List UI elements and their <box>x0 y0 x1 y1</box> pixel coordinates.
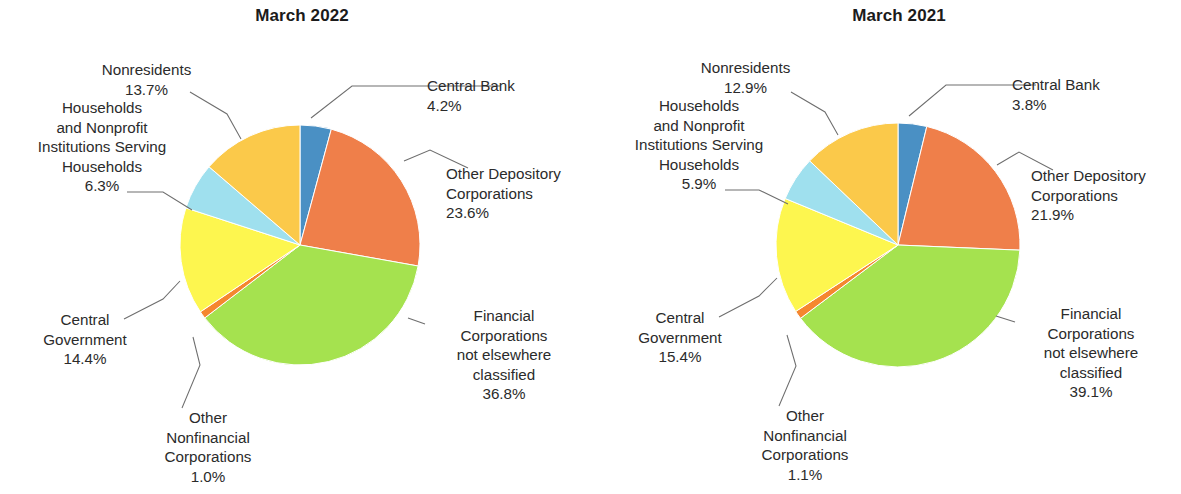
label-households-right: Households and Nonprofit Institutions Se… <box>599 96 799 194</box>
label-households-left: Households and Nonprofit Institutions Se… <box>2 98 202 196</box>
leader-financial-nec <box>996 316 1015 322</box>
label-nonresidents-right: Nonresidents 12.9% <box>663 58 828 97</box>
pie-slices-right <box>776 123 1020 367</box>
leader-financial-nec <box>408 318 425 324</box>
label-other-nonfinancial-left: Other Nonfinancial Corporations 1.0% <box>128 408 288 486</box>
label-central-bank-left: Central Bank 4.2% <box>427 76 577 115</box>
label-financial-nec-right: Financial Corporations not elsewhere cla… <box>1015 304 1167 402</box>
leader-other-nonfinancial <box>779 335 796 406</box>
pie-chart-panel-march-2021: March 2021 Central Bank 3.8% Other Depos… <box>591 0 1181 494</box>
label-central-government-left: Central Government 14.4% <box>10 310 160 369</box>
label-other-nonfinancial-right: Other Nonfinancial Corporations 1.1% <box>725 406 885 484</box>
label-nonresidents-left: Nonresidents 13.7% <box>64 60 229 99</box>
label-other-depository-left: Other Depository Corporations 23.6% <box>446 164 596 223</box>
pie-chart-panel-march-2022: March 2022 Central Bank 4.2% Other Depos… <box>0 0 590 494</box>
label-central-government-right: Central Government 15.4% <box>605 308 755 367</box>
label-central-bank-right: Central Bank 3.8% <box>1012 75 1162 114</box>
label-other-depository-right: Other Depository Corporations 21.9% <box>1031 166 1181 225</box>
leader-other-nonfinancial <box>182 337 200 408</box>
label-financial-nec-left: Financial Corporations not elsewhere cla… <box>428 306 580 404</box>
pie-slices-left <box>180 125 420 365</box>
